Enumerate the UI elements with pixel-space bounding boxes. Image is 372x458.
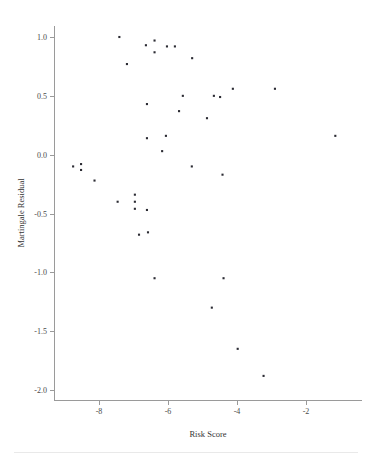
data-point: [93, 180, 95, 182]
data-point: [134, 208, 136, 210]
data-point: [117, 201, 119, 203]
data-point: [213, 95, 215, 97]
y-axis-title: Martingale Residual: [16, 178, 26, 248]
data-point: [134, 201, 136, 203]
data-point: [182, 95, 184, 97]
data-point: [178, 110, 180, 112]
data-point: [138, 234, 140, 236]
scatter-plot-figure: 1.00.50.0-0.5-1.0-1.5-2.0-8-6-4-2 Risk S…: [0, 0, 372, 458]
y-axis-tick-label: -0.5: [34, 210, 47, 219]
data-point: [153, 51, 155, 53]
data-point: [134, 194, 136, 196]
data-point: [206, 117, 208, 119]
data-point: [237, 348, 239, 350]
plot-canvas: 1.00.50.0-0.5-1.0-1.5-2.0-8-6-4-2 Risk S…: [0, 0, 372, 458]
x-axis-tick-label: -4: [234, 407, 241, 416]
data-point: [263, 375, 265, 377]
y-axis-tick-label: 1.0: [37, 33, 47, 42]
data-point: [146, 137, 148, 139]
data-point: [274, 88, 276, 90]
data-point: [72, 165, 74, 167]
x-axis-title: Risk Score: [189, 429, 226, 439]
data-point: [146, 209, 148, 211]
y-axis-tick-label: -2.0: [34, 386, 47, 395]
y-axis-tick-label: -1.0: [34, 268, 47, 277]
y-axis-tick-label: -1.5: [34, 327, 47, 336]
data-point: [80, 163, 82, 165]
data-point: [174, 45, 176, 47]
data-point: [334, 135, 336, 137]
data-point: [147, 231, 149, 233]
data-point: [222, 277, 224, 279]
data-point: [166, 45, 168, 47]
data-point: [191, 57, 193, 59]
y-axis-tick-label: 0.5: [37, 92, 47, 101]
data-point: [219, 96, 221, 98]
x-axis-tick-label: -8: [96, 407, 103, 416]
data-point: [191, 165, 193, 167]
data-point: [221, 174, 223, 176]
data-point: [126, 63, 128, 65]
y-axis-tick-label: 0.0: [37, 151, 47, 160]
data-points-group: [72, 36, 336, 377]
x-axis-tick-label: -6: [165, 407, 172, 416]
caption-divider: [14, 452, 358, 453]
data-point: [161, 150, 163, 152]
data-point: [146, 103, 148, 105]
data-point: [211, 307, 213, 309]
data-point: [145, 44, 147, 46]
data-point: [118, 36, 120, 38]
data-point: [153, 277, 155, 279]
data-point: [80, 169, 82, 171]
axes-group: 1.00.50.0-0.5-1.0-1.5-2.0-8-6-4-2: [34, 26, 362, 416]
data-point: [153, 39, 155, 41]
data-point: [165, 135, 167, 137]
x-axis-tick-label: -2: [303, 407, 310, 416]
axis-labels-group: Risk ScoreMartingale Residual: [16, 178, 227, 439]
data-point: [232, 88, 234, 90]
